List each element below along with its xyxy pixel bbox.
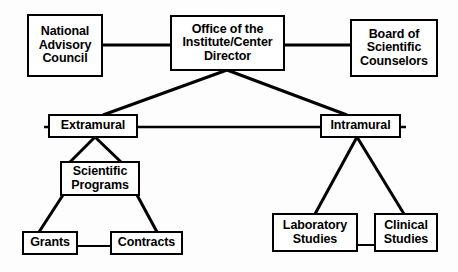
edge-director-to-intramural: [227, 70, 347, 115]
node-label: Intramural: [328, 119, 392, 133]
node-clinical-studies[interactable]: Clinical Studies: [374, 213, 438, 252]
node-label: Grants: [28, 236, 72, 250]
node-label: Laboratory Studies: [281, 219, 349, 246]
node-label: National Advisory Council: [37, 25, 94, 66]
node-national-advisory-council[interactable]: National Advisory Council: [27, 14, 103, 77]
node-board-scientific-counselors[interactable]: Board of Scientific Counselors: [350, 19, 438, 77]
node-label: Board of Scientific Counselors: [358, 28, 430, 69]
node-extramural[interactable]: Extramural: [48, 114, 138, 138]
node-label: Clinical Studies: [382, 219, 430, 246]
edge-extramural-to-sciprog-left: [70, 137, 95, 162]
node-laboratory-studies[interactable]: Laboratory Studies: [272, 213, 358, 252]
node-label: Contracts: [116, 236, 177, 250]
node-label: Office of the Institute/Center Director: [180, 23, 274, 64]
edge-sciprog-to-contracts: [137, 195, 157, 232]
org-chart-diagram: National Advisory Council Office of the …: [0, 0, 458, 272]
node-office-director[interactable]: Office of the Institute/Center Director: [170, 15, 285, 71]
node-scientific-programs[interactable]: Scientific Programs: [60, 161, 140, 196]
node-label: Scientific Programs: [69, 165, 131, 192]
edge-director-to-extramural: [103, 70, 227, 115]
edge-intramural-to-laboratory: [315, 137, 357, 214]
node-label: Extramural: [59, 119, 127, 133]
edge-extramural-to-sciprog-right: [95, 137, 121, 162]
node-grants[interactable]: Grants: [22, 231, 78, 255]
node-intramural[interactable]: Intramural: [320, 114, 401, 138]
node-contracts[interactable]: Contracts: [110, 231, 183, 255]
edge-intramural-to-clinical: [357, 137, 404, 214]
edge-sciprog-to-grants: [39, 195, 63, 232]
